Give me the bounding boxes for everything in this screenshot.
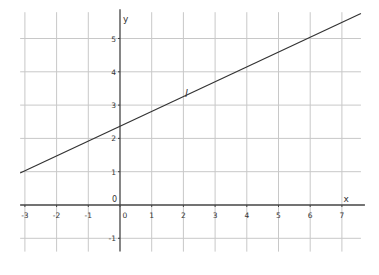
tick-labels: -3-2-101234567-112345 bbox=[21, 35, 344, 244]
coordinate-plane: -3-2-101234567-112345 x y 0 l bbox=[0, 0, 379, 275]
axes bbox=[20, 9, 365, 251]
y-tick-label: 4 bbox=[111, 68, 116, 77]
x-tick-label: 1 bbox=[149, 211, 154, 220]
y-tick-label: 3 bbox=[111, 101, 116, 110]
x-tick-label: 3 bbox=[213, 211, 218, 220]
origin-label: 0 bbox=[112, 195, 117, 204]
x-tick-label: 5 bbox=[276, 211, 281, 220]
graph-canvas: -3-2-101234567-112345 x y 0 l bbox=[0, 0, 379, 275]
y-tick-label: 1 bbox=[111, 168, 116, 177]
y-axis-label: y bbox=[123, 14, 129, 24]
x-tick-label: 0 bbox=[123, 211, 128, 220]
x-tick-label: 2 bbox=[181, 211, 186, 220]
x-tick-label: 4 bbox=[244, 211, 249, 220]
x-tick-label: 6 bbox=[308, 211, 313, 220]
x-tick-label: 7 bbox=[340, 211, 345, 220]
x-axis-label: x bbox=[343, 194, 349, 204]
y-tick-label: 5 bbox=[111, 35, 116, 44]
x-tick-label: -3 bbox=[21, 211, 29, 220]
x-tick-label: -1 bbox=[85, 211, 93, 220]
line-label-l: l bbox=[185, 88, 188, 99]
x-tick-label: -2 bbox=[53, 211, 61, 220]
y-tick-label: -1 bbox=[109, 234, 117, 243]
y-tick-label: 2 bbox=[111, 134, 116, 143]
